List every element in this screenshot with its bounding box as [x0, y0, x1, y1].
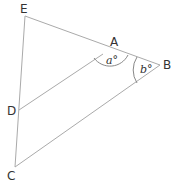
point-label-e: E	[20, 3, 28, 15]
angle-b-label: b°	[140, 64, 153, 75]
angle-b-arc	[133, 57, 137, 83]
segment-ec	[15, 16, 25, 167]
point-label-d: D	[7, 105, 16, 117]
segment-eb	[25, 16, 160, 65]
segment-cb	[15, 65, 160, 167]
point-label-b: B	[163, 59, 171, 71]
angle-a-label: a°	[106, 55, 118, 66]
point-label-c: C	[7, 170, 15, 182]
segment-da	[19, 54, 103, 110]
point-label-a: A	[110, 36, 118, 48]
diagram-lines	[0, 0, 175, 185]
geometry-diagram: E A B D C a° b°	[0, 0, 175, 185]
